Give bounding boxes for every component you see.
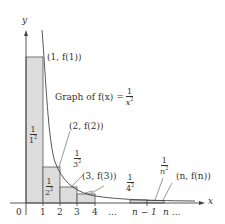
rect-3 (60, 187, 77, 203)
rect-label-1: 112 (29, 126, 37, 145)
point-label-1: (1, f(1)) (47, 53, 82, 62)
tick-n: n … (163, 208, 181, 217)
y-axis-label: y (22, 16, 27, 25)
point-label-2: (2, f(2)) (69, 122, 104, 131)
x-axis-label: x (208, 197, 213, 206)
x-axis-arrow-icon (199, 201, 205, 205)
y-axis-arrow-icon (24, 30, 28, 36)
point-label-n: (n, f(n)) (176, 172, 211, 181)
tick-3: 3 (74, 208, 80, 217)
integral-test-diagram (0, 0, 225, 224)
tick-n-minus-1: n − 1 (132, 208, 157, 217)
tick-1: 1 (40, 208, 46, 217)
tick-ellipsis: … (108, 208, 117, 217)
rect-label-3: 132 (73, 150, 81, 169)
tick-2: 2 (57, 208, 63, 217)
origin-label: 0 (16, 208, 22, 217)
point-label-3: (3, f(3)) (82, 172, 117, 181)
tick-4: 4 (92, 208, 98, 217)
rect-label-2: 122 (45, 178, 53, 197)
rect-label-4: 142 (126, 174, 134, 193)
graph-label: Graph of f(x) = 1 x2 (55, 88, 133, 107)
rect-label-n: 1n2 (160, 157, 168, 176)
